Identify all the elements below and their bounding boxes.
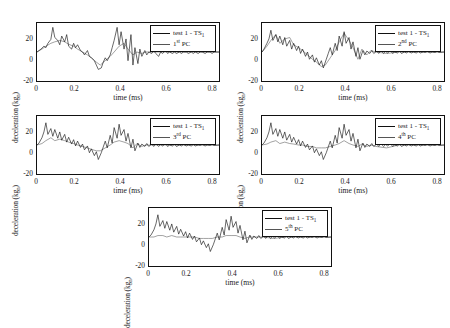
y-tick-0: 0 <box>16 55 33 64</box>
x-tick-0: 0 <box>28 84 44 93</box>
x-tick-06: 0.6 <box>269 269 287 278</box>
y-tick-20: 20 <box>241 34 258 43</box>
panel-3rd-pc: deceleration (kgn) 20 0 -20 test 1 - TS1… <box>0 101 225 196</box>
x-tick-04: 0.4 <box>111 84 129 93</box>
panel-5th-pc: deceleration (kgn) 20 0 -20 test 1 - TS1… <box>112 193 337 288</box>
panel-2nd-pc: deceleration (kgn) 20 0 -20 test 1 - TS1… <box>225 8 450 103</box>
panel-1st-pc: deceleration (kgn) 20 0 -20 test 1 - TS1… <box>0 8 225 103</box>
legend-label-signal: test 1 - TS1 <box>398 122 429 131</box>
legend-label-pc: 5th PC <box>285 225 303 234</box>
legend-line-signal <box>153 126 170 127</box>
x-tick-02: 0.2 <box>65 177 83 186</box>
legend-item-pc: 3rd PC <box>153 133 212 142</box>
legend-label-pc: 3rd PC <box>173 133 191 142</box>
x-tick-0: 0 <box>140 269 156 278</box>
x-tick-08: 0.8 <box>428 177 446 186</box>
legend-line-pc <box>265 229 282 230</box>
legend-1st-pc: test 1 - TS1 1st PC <box>150 25 216 52</box>
y-tick-20: 20 <box>16 34 33 43</box>
x-tick-04: 0.4 <box>223 269 241 278</box>
x-tick-06: 0.6 <box>382 84 400 93</box>
x-tick-0: 0 <box>253 84 269 93</box>
legend-item-signal: test 1 - TS1 <box>153 122 212 131</box>
y-axis-label: deceleration (kgn) <box>11 185 20 236</box>
y-tick-0: 0 <box>16 148 33 157</box>
legend-item-pc: 2nd PC <box>378 40 437 49</box>
x-tick-08: 0.8 <box>203 84 221 93</box>
y-tick-20: 20 <box>241 127 258 136</box>
x-tick-06: 0.6 <box>157 177 175 186</box>
legend-label-signal: test 1 - TS1 <box>398 29 429 38</box>
legend-line-pc <box>378 137 395 138</box>
x-tick-08: 0.8 <box>428 84 446 93</box>
legend-label-pc: 2nd PC <box>398 40 417 49</box>
legend-line-signal <box>153 33 170 34</box>
legend-2nd-pc: test 1 - TS1 2nd PC <box>375 25 441 52</box>
legend-3rd-pc: test 1 - TS1 3rd PC <box>150 118 216 145</box>
legend-label-signal: test 1 - TS1 <box>173 122 204 131</box>
x-tick-04: 0.4 <box>336 84 354 93</box>
panel-4th-pc: deceleration (kgn) 20 0 -20 test 1 - TS1… <box>225 101 450 196</box>
legend-item-signal: test 1 - TS1 <box>378 122 437 131</box>
x-tick-06: 0.6 <box>157 84 175 93</box>
legend-line-signal <box>378 126 395 127</box>
legend-line-pc <box>153 137 170 138</box>
x-tick-08: 0.8 <box>315 269 333 278</box>
legend-line-pc <box>378 44 395 45</box>
x-tick-02: 0.2 <box>177 269 195 278</box>
legend-item-signal: test 1 - TS1 <box>153 29 212 38</box>
legend-line-signal <box>265 218 282 219</box>
x-tick-0: 0 <box>253 177 269 186</box>
legend-4th-pc: test 1 - TS1 4th PC <box>375 118 441 145</box>
y-tick-20: 20 <box>128 219 145 228</box>
x-tick-02: 0.2 <box>290 177 308 186</box>
legend-item-pc: 1st PC <box>153 40 212 49</box>
legend-item-signal: test 1 - TS1 <box>265 214 324 223</box>
legend-line-signal <box>378 33 395 34</box>
x-tick-0: 0 <box>28 177 44 186</box>
y-tick-0: 0 <box>128 240 145 249</box>
x-tick-06: 0.6 <box>382 177 400 186</box>
legend-item-signal: test 1 - TS1 <box>378 29 437 38</box>
legend-label-pc: 4th PC <box>398 133 416 142</box>
legend-item-pc: 5th PC <box>265 225 324 234</box>
legend-label-signal: test 1 - TS1 <box>285 214 316 223</box>
x-tick-04: 0.4 <box>111 177 129 186</box>
y-tick-0: 0 <box>241 148 258 157</box>
legend-5th-pc: test 1 - TS1 5th PC <box>262 210 328 237</box>
x-tick-08: 0.8 <box>203 177 221 186</box>
y-tick-20: 20 <box>16 127 33 136</box>
y-axis-label: deceleration (kgn) <box>123 277 132 328</box>
x-tick-02: 0.2 <box>290 84 308 93</box>
x-axis-label: time (ms) <box>210 278 270 287</box>
legend-label-pc: 1st PC <box>173 40 190 49</box>
y-tick-0: 0 <box>241 55 258 64</box>
x-tick-02: 0.2 <box>65 84 83 93</box>
x-tick-04: 0.4 <box>336 177 354 186</box>
legend-label-signal: test 1 - TS1 <box>173 29 204 38</box>
legend-item-pc: 4th PC <box>378 133 437 142</box>
legend-line-pc <box>153 44 170 45</box>
